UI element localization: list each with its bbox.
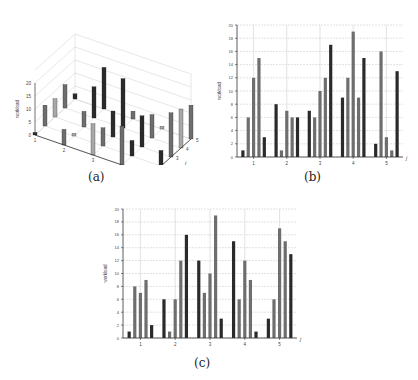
j-tick-label: 4 <box>186 147 189 152</box>
bar-3d <box>91 124 95 155</box>
z-axis-label: workload <box>15 100 20 119</box>
y-tick-label: 8 <box>117 284 120 289</box>
i-tick-label: 3 <box>92 158 95 163</box>
bar <box>385 137 388 157</box>
bar-3d <box>131 111 135 119</box>
bar-3d <box>33 132 37 135</box>
z-tick-label: 5 <box>28 120 31 125</box>
bar <box>168 332 171 338</box>
bar <box>357 98 360 157</box>
chart-a-panel: 051015201234512345ijworkload <box>0 0 210 165</box>
chart-a-3d-bars: 051015201234512345ijworkload <box>0 0 210 165</box>
bar <box>352 32 355 157</box>
bar-3d <box>160 126 164 129</box>
x-axis-label: j <box>405 155 408 161</box>
y-tick-label: 0 <box>231 155 234 160</box>
bar-3d <box>101 128 105 146</box>
bar <box>179 261 182 338</box>
y-tick-label: 0 <box>117 336 120 341</box>
y-axis-label: workload <box>217 82 222 101</box>
bar <box>249 280 252 338</box>
bar <box>296 117 299 157</box>
bar <box>174 299 177 338</box>
caption-a: (a) <box>88 170 105 184</box>
bar <box>263 137 266 157</box>
bar <box>362 58 365 157</box>
bar <box>257 58 260 157</box>
y-tick-label: 14 <box>229 62 234 67</box>
chart-c-panel: 0246810121416182012345jworkload <box>100 200 315 355</box>
bar-3d <box>150 115 154 138</box>
bar <box>284 241 287 338</box>
bar <box>379 51 382 157</box>
x-tick-label: 2 <box>286 161 289 166</box>
bar <box>214 215 217 338</box>
bar <box>341 98 344 157</box>
bar-3d <box>121 79 125 128</box>
y-tick-label: 16 <box>115 232 120 237</box>
bar-3d <box>53 99 57 117</box>
z-tick-label: 0 <box>28 133 31 138</box>
bar <box>241 150 244 157</box>
bar <box>329 45 332 157</box>
bar <box>128 332 131 338</box>
y-tick-label: 10 <box>115 271 120 276</box>
y-tick-label: 8 <box>231 102 234 107</box>
bar <box>208 274 211 339</box>
bar <box>252 78 255 157</box>
bar <box>313 117 316 157</box>
x-tick-label: 3 <box>209 342 212 347</box>
bar <box>185 235 188 338</box>
y-tick-label: 10 <box>229 89 234 94</box>
bar <box>280 150 283 157</box>
bar-3d <box>43 105 47 126</box>
bar-3d <box>189 105 193 139</box>
chart-b-panel: 0246810121416182012345jworkload <box>212 10 418 170</box>
y-tick-label: 12 <box>115 258 120 263</box>
x-tick-label: 5 <box>385 161 388 166</box>
bar-3d <box>120 126 124 165</box>
y-axis-label: workload <box>103 264 108 283</box>
x-tick-label: 4 <box>244 342 247 347</box>
bar <box>197 261 200 338</box>
y-tick-label: 16 <box>229 49 234 54</box>
bar <box>390 150 393 157</box>
bar <box>278 228 281 338</box>
i-tick-label: 1 <box>34 138 37 143</box>
bar-3d <box>82 111 86 127</box>
caption-c: (c) <box>194 356 210 370</box>
bar <box>346 78 349 157</box>
x-tick-label: 3 <box>319 161 322 166</box>
z-tick-label: 15 <box>26 94 32 99</box>
bar <box>285 111 288 157</box>
bar-3d <box>102 67 106 109</box>
bar <box>203 293 206 338</box>
x-tick-label: 1 <box>252 161 255 166</box>
bar <box>247 117 250 157</box>
bar-3d <box>130 140 134 156</box>
chart-b-bars: 0246810121416182012345jworkload <box>212 10 418 170</box>
caption-b: (b) <box>304 170 321 184</box>
y-tick-label: 4 <box>231 128 234 133</box>
bar-3d <box>72 133 76 136</box>
i-axis-label: i <box>89 164 91 165</box>
y-tick-label: 2 <box>117 323 120 328</box>
x-tick-label: 1 <box>139 342 142 347</box>
bar-3d <box>140 116 144 147</box>
bar <box>150 325 153 338</box>
y-tick-label: 6 <box>231 115 234 120</box>
bar <box>144 280 147 338</box>
bar-3d <box>159 150 163 165</box>
x-axis-label: j <box>299 336 302 342</box>
bar-3d <box>62 129 66 145</box>
bar-3d <box>179 109 183 148</box>
x-tick-label: 4 <box>352 161 355 166</box>
y-tick-label: 14 <box>115 245 120 250</box>
bar <box>308 111 311 157</box>
x-tick-label: 2 <box>174 342 177 347</box>
bar <box>162 299 165 338</box>
j-tick-label: 5 <box>196 138 199 143</box>
bar <box>374 144 377 157</box>
bar <box>267 319 270 338</box>
bar <box>324 78 327 157</box>
